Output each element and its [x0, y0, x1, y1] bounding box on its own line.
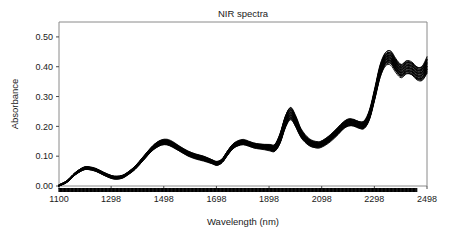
- x-tick-label: 1298: [101, 194, 121, 204]
- nir-spectra-figure: NIR spectra 0.000.100.200.300.400.50 110…: [0, 0, 449, 240]
- y-tick-label: 0.20: [35, 122, 53, 132]
- x-tick-label: 2098: [312, 194, 332, 204]
- x-axis-label: Wavelength (nm): [207, 216, 279, 227]
- x-tick-label: 2498: [417, 194, 437, 204]
- chart-title: NIR spectra: [218, 8, 269, 19]
- x-tick-label: 1898: [259, 194, 279, 204]
- y-axis-label: Absorbance: [9, 79, 20, 130]
- x-tick-label: 1498: [154, 194, 174, 204]
- y-tick-label: 0.50: [35, 32, 53, 42]
- x-axis-rug-marks: [59, 188, 417, 192]
- x-tick-label: 2298: [364, 194, 384, 204]
- figure-background: [0, 0, 449, 240]
- x-tick-label: 1698: [206, 194, 226, 204]
- y-tick-label: 0.30: [35, 92, 53, 102]
- x-tick-label: 1100: [49, 194, 68, 204]
- y-tick-label: 0.00: [35, 181, 53, 191]
- y-tick-label: 0.10: [35, 151, 53, 161]
- nir-spectra-chart: NIR spectra 0.000.100.200.300.400.50 110…: [0, 0, 449, 240]
- y-tick-label: 0.40: [35, 62, 53, 72]
